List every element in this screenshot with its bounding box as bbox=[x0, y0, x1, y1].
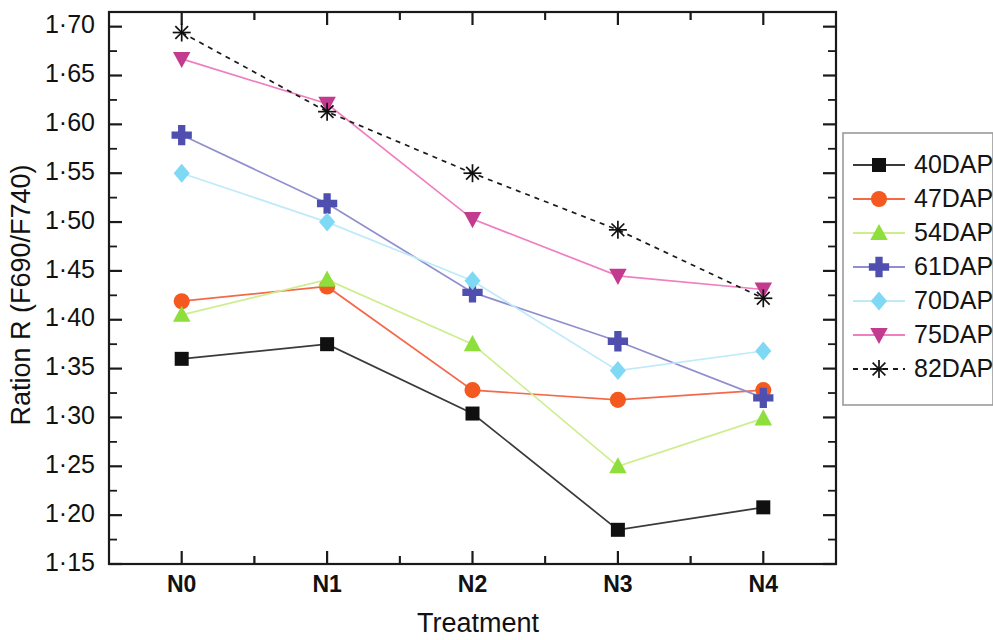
asterisk-ray bbox=[182, 26, 188, 32]
marker-plus bbox=[317, 193, 337, 213]
legend-label: 40DAP bbox=[914, 150, 993, 178]
marker-triangle-up bbox=[464, 335, 482, 351]
y-tick-label: 1·30 bbox=[45, 401, 95, 429]
asterisk-ray bbox=[757, 298, 763, 304]
marker-asterisk bbox=[754, 289, 772, 307]
marker-plus bbox=[608, 331, 628, 351]
y-tick-label: 1·45 bbox=[45, 255, 95, 283]
asterisk-ray bbox=[175, 26, 181, 32]
x-axis-major-ticks bbox=[182, 551, 764, 564]
chart-legend: 40DAP47DAP54DAP61DAP70DAP75DAP82DAP bbox=[843, 133, 993, 405]
marker-asterisk bbox=[464, 164, 482, 182]
asterisk-ray bbox=[321, 112, 327, 118]
marker-triangle-up bbox=[318, 271, 336, 287]
x-axis-tick-labels: N0N1N2N3N4 bbox=[167, 571, 778, 597]
y-tick-label: 1·65 bbox=[45, 59, 95, 87]
top-axis-ticks bbox=[182, 12, 764, 25]
series-40DAP bbox=[175, 337, 771, 537]
marker-plus bbox=[172, 125, 192, 145]
series-line bbox=[182, 344, 764, 530]
y-tick-label: 1·70 bbox=[45, 10, 95, 38]
y-tick-label: 1·55 bbox=[45, 157, 95, 185]
series-layer bbox=[172, 24, 774, 537]
marker-triangle-up bbox=[609, 457, 627, 473]
marker-diamond bbox=[755, 342, 771, 361]
line-chart: 1·151·201·251·301·351·401·451·501·551·60… bbox=[0, 0, 993, 640]
x-tick-label: N1 bbox=[312, 571, 342, 597]
marker-circle bbox=[464, 382, 480, 398]
y-axis-title: Ration R (F690/F740) bbox=[6, 164, 36, 425]
asterisk-ray bbox=[473, 167, 479, 173]
legend-label: 54DAP bbox=[914, 218, 993, 246]
marker-asterisk bbox=[609, 221, 627, 239]
asterisk-ray bbox=[618, 224, 624, 230]
marker-diamond bbox=[464, 271, 480, 290]
x-tick-label: N2 bbox=[458, 571, 487, 597]
marker-circle bbox=[610, 392, 626, 408]
y-tick-label: 1·25 bbox=[45, 450, 95, 478]
asterisk-ray bbox=[612, 224, 618, 230]
marker-square bbox=[175, 352, 189, 366]
y-tick-label: 1·60 bbox=[45, 108, 95, 136]
legend-label: 75DAP bbox=[914, 320, 993, 348]
x-axis-title: Treatment bbox=[417, 608, 540, 638]
legend-label: 61DAP bbox=[914, 252, 993, 280]
asterisk-ray bbox=[612, 230, 618, 236]
marker-asterisk bbox=[173, 24, 191, 42]
marker-asterisk bbox=[870, 360, 888, 378]
chart-figure: 1·151·201·251·301·351·401·451·501·551·60… bbox=[0, 0, 993, 640]
series-line bbox=[182, 280, 764, 467]
y-tick-label: 1·35 bbox=[45, 352, 95, 380]
marker-triangle-down bbox=[464, 212, 482, 228]
asterisk-ray bbox=[466, 173, 472, 179]
marker-square bbox=[872, 158, 886, 172]
y-tick-label: 1·15 bbox=[45, 548, 95, 576]
asterisk-ray bbox=[763, 298, 769, 304]
marker-diamond bbox=[174, 164, 190, 183]
asterisk-ray bbox=[473, 173, 479, 179]
series-82DAP bbox=[173, 24, 773, 308]
legend-label: 70DAP bbox=[914, 286, 993, 314]
marker-square bbox=[756, 500, 770, 514]
x-tick-label: N0 bbox=[167, 571, 196, 597]
marker-square bbox=[466, 407, 480, 421]
marker-square bbox=[320, 337, 334, 351]
y-tick-label: 1·20 bbox=[45, 499, 95, 527]
legend-label: 47DAP bbox=[914, 184, 993, 212]
marker-triangle-up bbox=[755, 409, 773, 425]
y-axis-tick-labels: 1·151·201·251·301·351·401·451·501·551·60… bbox=[45, 10, 95, 575]
y-tick-label: 1·50 bbox=[45, 206, 95, 234]
legend-label: 82DAP bbox=[914, 354, 993, 382]
marker-circle bbox=[871, 191, 887, 207]
x-tick-label: N4 bbox=[749, 571, 779, 597]
marker-square bbox=[611, 523, 625, 537]
asterisk-ray bbox=[175, 33, 181, 39]
marker-diamond bbox=[319, 213, 335, 232]
x-tick-label: N3 bbox=[603, 571, 632, 597]
marker-asterisk bbox=[318, 103, 336, 121]
y-tick-label: 1·40 bbox=[45, 303, 95, 331]
right-axis-ticks bbox=[823, 27, 836, 564]
marker-diamond bbox=[610, 361, 626, 380]
